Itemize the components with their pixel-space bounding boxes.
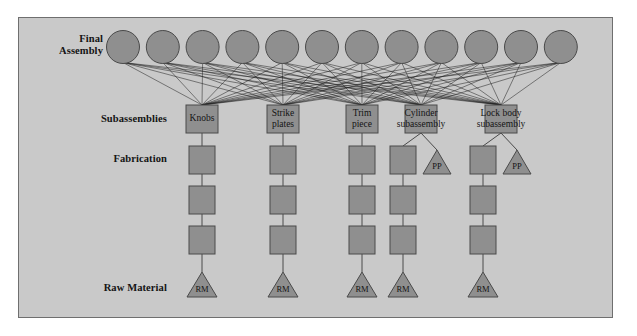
assembly-link	[322, 63, 362, 106]
raw-material-label: RM	[476, 284, 490, 294]
assembly-link	[123, 63, 202, 106]
fabrication-box	[470, 186, 496, 214]
fabrication-box	[390, 186, 416, 214]
assembly-link	[501, 63, 521, 106]
diagram-graphics: KnobsStrikeplatesTrimpieceCylindersubass…	[0, 0, 637, 336]
final-assembly-node	[425, 31, 458, 64]
final-assembly-node	[186, 31, 219, 64]
final-assembly-node	[465, 31, 498, 64]
final-assembly-node	[385, 31, 418, 64]
raw-material-label: RM	[355, 284, 369, 294]
fabrication-link	[483, 133, 501, 146]
purchased-part-label: PP	[432, 161, 442, 171]
fabrication-box	[470, 226, 496, 254]
subassembly-label: Strike	[272, 108, 295, 118]
subassembly-label: Trim	[353, 108, 372, 118]
fabrication-box	[270, 226, 296, 254]
final-assembly-node	[107, 31, 140, 64]
fabrication-box	[390, 146, 416, 174]
assembly-link	[362, 63, 441, 106]
diagram-canvas: Final Assembly Subassemblies Fabrication…	[0, 0, 637, 336]
fabrication-box	[470, 146, 496, 174]
subassembly-label: Cylinder	[404, 108, 438, 118]
fabrication-box	[349, 186, 375, 214]
final-assembly-node	[345, 31, 378, 64]
purchased-part-link	[421, 133, 437, 150]
final-assembly-node	[146, 31, 179, 64]
fabrication-box	[349, 226, 375, 254]
fabrication-box	[189, 146, 215, 174]
fabrication-box	[270, 186, 296, 214]
fabrication-box	[349, 146, 375, 174]
fabrication-box	[390, 226, 416, 254]
final-assembly-node	[505, 31, 538, 64]
subassembly-label: plates	[272, 119, 294, 129]
subassembly-label: Knobs	[190, 113, 215, 123]
purchased-part-label: PP	[512, 161, 522, 171]
assembly-link	[203, 63, 501, 106]
subassembly-label: subassembly	[397, 119, 446, 129]
final-assembly-node	[544, 31, 577, 64]
fabrication-box	[189, 186, 215, 214]
final-assembly-nodes	[107, 31, 578, 64]
final-assembly-node	[306, 31, 339, 64]
fabrication-box	[189, 226, 215, 254]
subassembly-label: piece	[352, 119, 372, 129]
fabrication-box	[270, 146, 296, 174]
assembly-link	[123, 63, 421, 106]
final-assembly-node	[266, 31, 299, 64]
process-boxes: KnobsStrikeplatesTrimpieceCylindersubass…	[186, 105, 526, 254]
fabrication-link	[403, 133, 421, 146]
subassembly-label: Lock body	[481, 108, 522, 118]
raw-material-label: RM	[396, 284, 410, 294]
raw-material-label: RM	[195, 284, 209, 294]
purchased-part-link	[501, 133, 517, 150]
subassembly-label: subassembly	[477, 119, 526, 129]
final-assembly-node	[226, 31, 259, 64]
raw-material-label: RM	[276, 284, 290, 294]
final-assembly-to-subassembly-edges	[123, 63, 561, 106]
